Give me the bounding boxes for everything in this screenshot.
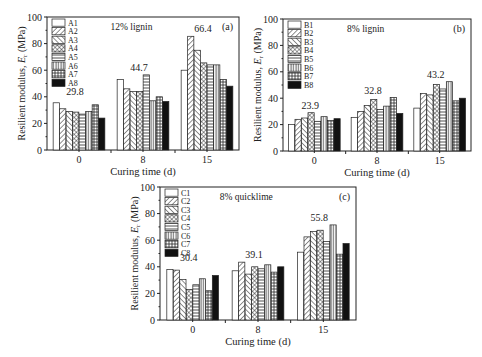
bar-A4-15: [201, 63, 207, 150]
group-annotation: 39.1: [245, 249, 263, 260]
group-annotation: 66.4: [194, 23, 212, 34]
x-axis-label: Curing time (d): [225, 336, 291, 348]
bar-A6-8: [150, 101, 156, 150]
bar-C3-15: [310, 232, 316, 320]
group-annotation: 44.7: [130, 62, 148, 73]
bar-B8-0: [334, 119, 340, 151]
bar-A2-8: [124, 89, 130, 150]
chart-panel-c: 020406080100030.4839.11555.88% quicklime…: [129, 182, 356, 349]
legend-swatch-C5: [165, 223, 178, 230]
bar-C7-0: [206, 291, 212, 320]
legend-swatch-A1: [52, 19, 65, 26]
bar-C7-15: [336, 254, 342, 320]
legend-swatch-B4: [288, 47, 301, 54]
x-tick-label: 8: [256, 324, 261, 335]
legend-swatch-B1: [288, 21, 301, 28]
legend-swatch-C3: [165, 206, 178, 213]
bar-C3-8: [245, 274, 251, 320]
bar-A2-15: [188, 36, 194, 150]
bar-B4-8: [371, 100, 377, 151]
bar-group-0: [167, 269, 219, 320]
bar-C2-0: [173, 270, 179, 320]
legend-swatch-A2: [52, 28, 65, 35]
bar-C1-15: [297, 252, 303, 320]
y-tick-label: 0: [150, 315, 155, 326]
y-tick-label: 60: [145, 235, 155, 246]
y-axis-label: Resilient modulus, Er (MPa): [252, 28, 265, 142]
y-tick-label: 60: [32, 65, 42, 76]
bar-C4-8: [252, 267, 258, 320]
chart-panel-b: 020406080100023.9832.81543.28% lignin(b)…: [252, 14, 471, 180]
bar-C2-8: [239, 262, 245, 320]
bar-C7-8: [271, 272, 277, 320]
bar-A1-0: [53, 103, 59, 150]
x-tick-label: 0: [77, 154, 82, 165]
group-annotation: 23.9: [302, 100, 320, 111]
bar-B5-8: [377, 109, 383, 151]
x-tick-label: 8: [141, 154, 146, 165]
bar-A6-0: [86, 111, 92, 150]
legend-swatch-A3: [52, 36, 65, 43]
legend-swatch-B5: [288, 55, 301, 62]
y-tick-label: 80: [32, 38, 42, 49]
bar-A3-8: [130, 91, 136, 150]
chart-panels: 020406080100029.8844.71566.412% lignin(a…: [16, 12, 471, 349]
bar-A7-0: [92, 105, 98, 150]
bar-C6-15: [330, 225, 336, 320]
legend-label: C8: [181, 249, 190, 258]
legend-swatch-B6: [288, 64, 301, 71]
bar-B2-15: [420, 94, 426, 151]
x-tick-label: 8: [375, 155, 380, 166]
legend-swatch-A8: [52, 79, 65, 86]
bar-B4-0: [308, 113, 314, 151]
y-tick-label: 100: [27, 12, 42, 23]
legend-swatch-C4: [165, 215, 178, 222]
bar-B1-8: [351, 117, 357, 151]
bar-B1-15: [414, 108, 420, 151]
panel-label: (c): [339, 191, 350, 203]
bar-C8-15: [343, 244, 349, 320]
y-tick-label: 40: [32, 91, 42, 102]
y-axis-label: Resilient modulus, Er (MPa): [129, 196, 142, 310]
bar-A1-15: [181, 70, 187, 150]
bar-B3-8: [364, 105, 370, 151]
panel-label: (b): [453, 23, 465, 35]
x-tick-label: 0: [312, 155, 317, 166]
y-tick-label: 100: [263, 14, 278, 25]
x-tick-label: 15: [318, 324, 328, 335]
x-tick-label: 15: [202, 154, 212, 165]
bar-C5-15: [323, 242, 329, 320]
x-axis-label: Curing time (d): [110, 166, 176, 178]
bar-A6-15: [214, 65, 220, 150]
group-annotation: 55.8: [311, 212, 329, 223]
bar-A5-8: [143, 75, 149, 150]
legend-swatch-B7: [288, 73, 301, 80]
bar-B2-8: [358, 111, 364, 151]
bar-A8-8: [163, 101, 169, 150]
bar-C8-8: [278, 267, 284, 320]
bar-B5-0: [314, 121, 320, 151]
bar-A7-8: [156, 97, 162, 150]
bar-C6-8: [265, 265, 271, 320]
bar-A1-8: [117, 80, 123, 150]
bar-B7-15: [453, 101, 459, 151]
legend-swatch-B3: [288, 38, 301, 45]
legend-swatch-B8: [288, 81, 301, 88]
y-tick-label: 80: [268, 40, 278, 51]
y-tick-label: 0: [37, 145, 42, 156]
legend-swatch-A5: [52, 53, 65, 60]
y-tick-label: 40: [268, 93, 278, 104]
bar-B8-8: [397, 113, 403, 151]
legend-swatch-C2: [165, 198, 178, 205]
x-tick-label: 0: [190, 324, 195, 335]
bar-group-8: [117, 75, 169, 150]
legend-swatch-C7: [165, 241, 178, 248]
y-axis-label: Resilient modulus, Er (MPa): [16, 26, 29, 140]
y-tick-label: 100: [140, 182, 155, 193]
bar-B4-15: [433, 84, 439, 151]
bar-A5-0: [79, 114, 85, 150]
group-annotation: 43.2: [427, 69, 445, 80]
bar-A4-0: [73, 112, 79, 150]
bar-group-0: [288, 113, 340, 151]
legend-label: B8: [304, 81, 313, 90]
